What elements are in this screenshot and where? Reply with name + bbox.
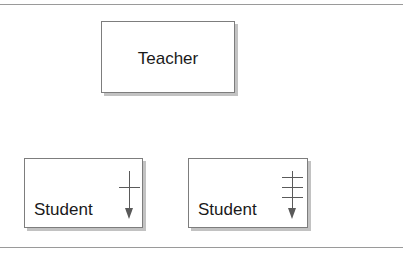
arrow-crossbar bbox=[282, 187, 303, 188]
down-arrow-one-crossbar-icon bbox=[117, 165, 143, 223]
down-arrow-three-crossbars-icon bbox=[280, 165, 306, 223]
arrow-crossbar bbox=[119, 187, 140, 188]
teacher-node[interactable]: Teacher bbox=[101, 21, 235, 93]
arrow-crossbar bbox=[282, 177, 303, 178]
arrow-shaft bbox=[129, 171, 130, 209]
student-node-left-label: Student bbox=[34, 201, 93, 218]
student-node-right[interactable]: Student bbox=[188, 158, 308, 228]
diagram-canvas: Teacher Student Student bbox=[0, 0, 403, 254]
bottom-divider-rule bbox=[0, 247, 403, 248]
arrow-crossbar bbox=[282, 197, 303, 198]
student-node-left[interactable]: Student bbox=[24, 158, 143, 228]
student-node-right-label: Student bbox=[198, 201, 257, 218]
teacher-node-label: Teacher bbox=[102, 50, 234, 67]
arrow-head bbox=[125, 208, 133, 219]
arrow-head bbox=[288, 208, 296, 219]
top-divider-rule bbox=[0, 4, 403, 5]
